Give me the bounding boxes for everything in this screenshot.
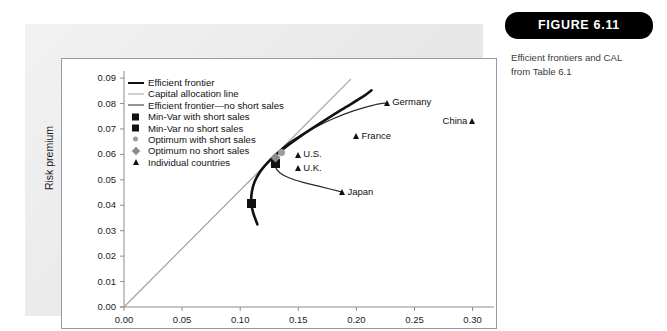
legend-item: Optimum no short sales bbox=[126, 145, 284, 156]
country-label: China bbox=[443, 115, 468, 126]
legend-key-diamond-icon bbox=[126, 145, 148, 156]
x-tick-label: 0.30 bbox=[453, 314, 493, 325]
legend-item: Efficient frontier bbox=[126, 77, 284, 88]
legend-key-thin-line-icon bbox=[126, 100, 148, 111]
country-label: Japan bbox=[347, 186, 373, 197]
x-tick-label: 0.25 bbox=[394, 314, 434, 325]
x-tick-label: 0.20 bbox=[336, 314, 376, 325]
country-marker bbox=[295, 165, 301, 171]
figure-caption-block: FIGURE 6.11 Efficient frontiers and CAL … bbox=[505, 12, 655, 78]
figure-panel: Risk premium Standard deviation (%) 0.00… bbox=[25, 24, 483, 316]
legend-key-circle-icon bbox=[126, 134, 148, 145]
y-axis-title: Risk premium bbox=[43, 93, 55, 223]
caption-line-2: from Table 6.1 bbox=[511, 65, 655, 79]
legend-key-square-icon bbox=[126, 123, 148, 134]
chart-marker bbox=[247, 199, 256, 208]
caption-line-1: Efficient frontiers and CAL bbox=[511, 51, 655, 65]
x-tick-label: 0.00 bbox=[104, 314, 144, 325]
country-marker bbox=[353, 133, 359, 139]
plot-card: 0.000.010.020.030.040.050.060.070.080.09… bbox=[61, 58, 497, 329]
legend-item-label: Individual countries bbox=[148, 157, 230, 168]
country-marker bbox=[339, 189, 345, 195]
figure-number-badge: FIGURE 6.11 bbox=[505, 12, 653, 39]
legend-item: Individual countries bbox=[126, 157, 284, 168]
y-tick-label: 0.05 bbox=[82, 174, 116, 185]
y-tick-label: 0.04 bbox=[82, 199, 116, 210]
y-tick-label: 0.06 bbox=[82, 148, 116, 159]
legend-item-label: Min-Var no short sales bbox=[148, 123, 243, 134]
chart-legend: Efficient frontierCapital allocation lin… bbox=[126, 77, 284, 168]
legend-item-label: Efficient frontier—no short sales bbox=[148, 100, 284, 111]
y-tick-label: 0.00 bbox=[82, 301, 116, 312]
y-tick-label: 0.03 bbox=[82, 225, 116, 236]
y-tick-label: 0.01 bbox=[82, 276, 116, 287]
country-label: France bbox=[361, 130, 391, 141]
legend-item: Optimum with short sales bbox=[126, 134, 284, 145]
y-tick-label: 0.08 bbox=[82, 98, 116, 109]
x-tick-label: 0.05 bbox=[162, 314, 202, 325]
y-tick-label: 0.07 bbox=[82, 123, 116, 134]
legend-item: Min-Var no short sales bbox=[126, 123, 284, 134]
legend-item-label: Efficient frontier bbox=[148, 77, 214, 88]
legend-item: Capital allocation line bbox=[126, 88, 284, 99]
legend-key-triangle-icon bbox=[126, 157, 148, 168]
legend-item-label: Capital allocation line bbox=[148, 88, 239, 99]
country-label: U.S. bbox=[303, 148, 321, 159]
legend-key-thick-line-icon bbox=[126, 77, 148, 88]
x-tick-label: 0.10 bbox=[220, 314, 260, 325]
y-tick-label: 0.09 bbox=[82, 72, 116, 83]
legend-item-label: Optimum no short sales bbox=[148, 145, 249, 156]
legend-item: Min-Var with short sales bbox=[126, 111, 284, 122]
country-label: Germany bbox=[392, 96, 431, 107]
figure-caption-text: Efficient frontiers and CAL from Table 6… bbox=[505, 51, 655, 78]
legend-item: Efficient frontier—no short sales bbox=[126, 100, 284, 111]
country-marker bbox=[469, 118, 475, 124]
y-tick-label: 0.02 bbox=[82, 250, 116, 261]
legend-item-label: Min-Var with short sales bbox=[148, 111, 250, 122]
x-tick-label: 0.15 bbox=[278, 314, 318, 325]
country-marker bbox=[295, 152, 301, 158]
legend-item-label: Optimum with short sales bbox=[148, 134, 256, 145]
country-label: U.K. bbox=[303, 162, 321, 173]
plot-area: 0.000.010.020.030.040.050.060.070.080.09… bbox=[62, 59, 498, 330]
legend-key-gray-line-icon bbox=[126, 88, 148, 99]
country-marker bbox=[384, 100, 390, 106]
legend-key-square-icon bbox=[126, 111, 148, 122]
figure-root: Risk premium Standard deviation (%) 0.00… bbox=[0, 0, 667, 331]
